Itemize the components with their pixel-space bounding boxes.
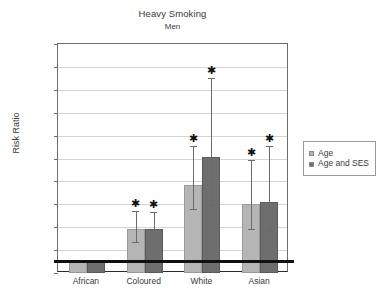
legend-swatch-age-and-ses-icon — [309, 162, 314, 167]
y-axis-tick-mark — [54, 136, 58, 137]
y-axis-tick-mark — [54, 67, 58, 68]
error-bar-cap-upper — [190, 146, 197, 147]
plot-area: 02468101214161820✱✱✱✱✱✱ — [57, 43, 288, 272]
error-bar-cap-upper — [150, 212, 157, 213]
y-axis-tick-mark — [54, 204, 58, 205]
y-axis-label: Risk Ratio — [11, 93, 21, 173]
gridline — [58, 90, 287, 91]
error-bar — [251, 160, 252, 230]
legend-label-age: Age — [318, 149, 333, 158]
chart-title: Heavy Smoking — [57, 8, 288, 19]
significance-asterisk: ✱ — [245, 147, 257, 158]
error-bar-cap-lower — [132, 242, 139, 243]
error-bar-cap-lower — [266, 231, 273, 232]
error-bar — [269, 146, 270, 231]
error-bar-cap-lower — [208, 205, 215, 206]
error-bar — [211, 78, 212, 205]
error-bar — [193, 146, 194, 209]
chart-container: Heavy Smoking Men Risk Ratio 02468101214… — [0, 0, 392, 307]
y-axis-tick-mark — [54, 181, 58, 182]
y-axis-tick-mark — [54, 159, 58, 160]
error-bar-cap-lower — [150, 243, 157, 244]
legend-swatch-age-icon — [309, 151, 314, 156]
chart-subtitle: Men — [57, 22, 288, 31]
error-bar-cap-upper — [208, 78, 215, 79]
y-axis-tick-mark — [54, 90, 58, 91]
error-bar-cap-lower — [248, 229, 255, 230]
gridline — [58, 113, 287, 114]
gridline — [58, 181, 287, 182]
gridline — [58, 67, 287, 68]
legend-label-age-and-ses: Age and SES — [318, 159, 369, 168]
significance-asterisk: ✱ — [187, 133, 199, 144]
significance-asterisk: ✱ — [263, 133, 275, 144]
bar-african-age-and-ses — [87, 262, 105, 273]
error-bar-cap-lower — [190, 209, 197, 210]
error-bar — [154, 212, 155, 243]
x-axis-tick-label-asian: Asian — [224, 276, 294, 286]
legend-item-age-and-ses[interactable]: Age and SES — [309, 159, 369, 168]
legend-item-age[interactable]: Age — [309, 149, 369, 158]
y-axis-tick-mark — [54, 113, 58, 114]
y-axis-tick-mark — [54, 273, 58, 274]
gridline — [58, 136, 287, 137]
significance-asterisk: ✱ — [148, 199, 160, 210]
y-axis-tick-mark — [54, 250, 58, 251]
error-bar — [136, 211, 137, 242]
significance-asterisk: ✱ — [205, 65, 217, 76]
y-axis-tick-mark — [54, 44, 58, 45]
error-bar-cap-upper — [132, 211, 139, 212]
y-axis-tick-mark — [54, 227, 58, 228]
error-bar-cap-upper — [266, 146, 273, 147]
significance-asterisk: ✱ — [130, 198, 142, 209]
reference-line — [54, 260, 294, 263]
bar-african-age — [69, 262, 87, 273]
chart-legend: Age Age and SES — [303, 141, 376, 176]
error-bar-cap-upper — [248, 160, 255, 161]
